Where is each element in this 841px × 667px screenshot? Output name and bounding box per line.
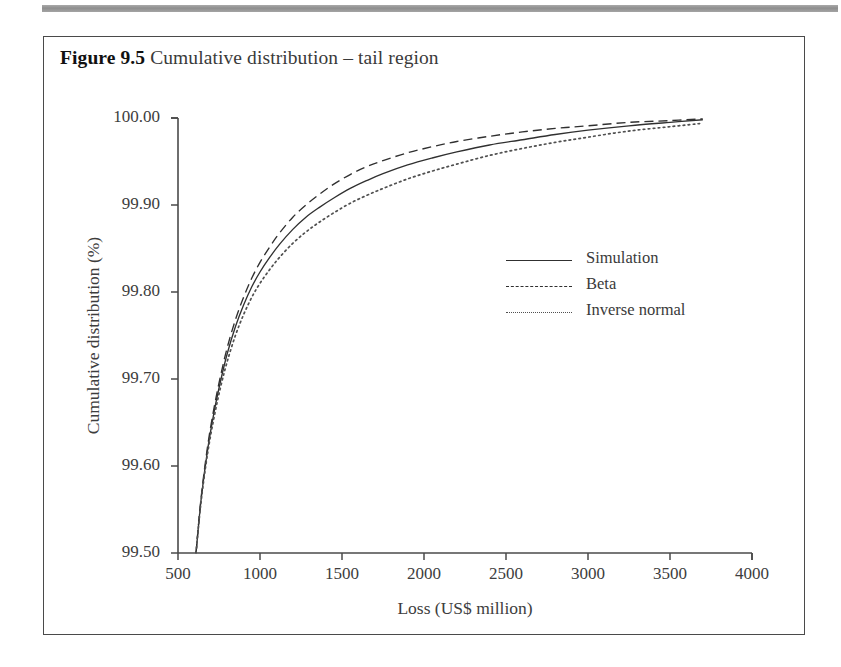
y-axis-tick-label: 100.00	[80, 107, 160, 127]
x-axis-tick-label: 3000	[553, 564, 623, 584]
x-axis-tick-label: 2500	[471, 564, 541, 584]
legend-line-sample-dashed-icon	[506, 286, 572, 287]
figure-caption: Figure 9.5 Cumulative distribution – tai…	[60, 47, 439, 69]
y-axis-tick-label: 99.50	[80, 542, 160, 562]
legend-item-beta[interactable]: Beta	[506, 274, 736, 300]
x-axis-tick-label: 4000	[717, 564, 787, 584]
legend-item-inverse-normal[interactable]: Inverse normal	[506, 300, 736, 326]
x-axis-tick-label: 1500	[307, 564, 377, 584]
x-axis-tick-label: 1000	[225, 564, 295, 584]
x-axis-tick-label: 3500	[635, 564, 705, 584]
legend-label: Simulation	[586, 248, 658, 268]
figure-title: Cumulative distribution – tail region	[150, 47, 439, 68]
legend-label: Beta	[586, 274, 616, 294]
page-canvas: Figure 9.5 Cumulative distribution – tai…	[0, 0, 841, 667]
figure-number: Figure 9.5	[60, 47, 145, 68]
y-axis-title: Cumulative distribution (%)	[83, 186, 104, 486]
x-axis-title: Loss (US$ million)	[325, 598, 605, 619]
x-axis-tick-label: 500	[143, 564, 213, 584]
chart-legend: SimulationBetaInverse normal	[506, 248, 736, 326]
scan-artifact-bar	[42, 5, 838, 12]
legend-label: Inverse normal	[586, 300, 685, 320]
x-axis-tick-label: 2000	[389, 564, 459, 584]
legend-line-sample-solid-icon	[506, 260, 572, 261]
legend-line-sample-dotted-icon	[506, 312, 572, 313]
legend-item-simulation[interactable]: Simulation	[506, 248, 736, 274]
